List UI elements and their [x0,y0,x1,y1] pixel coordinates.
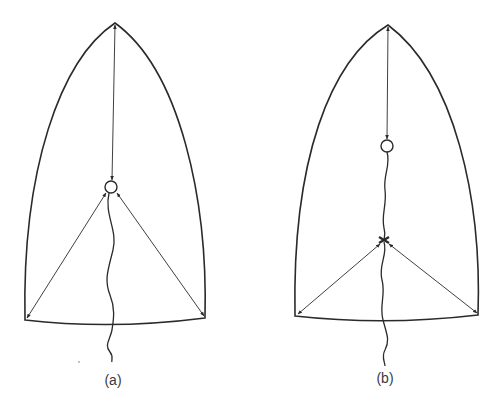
arrow-ring-to-tack-a [27,193,106,318]
arrow-junction-to-tack-b [298,244,380,314]
speck-a [78,361,80,363]
panel-label-a: (a) [104,372,121,388]
ring-b [381,140,393,152]
arrow-head-to-ring-b [387,27,388,139]
arrow-junction-to-clew-b [389,244,477,313]
arrow-ring-to-clew-a [117,193,204,316]
wavy-line-a [107,193,114,362]
panel-a [25,23,205,363]
wavy-line-upper-b [383,152,388,240]
panel-b [295,25,479,366]
arrow-head-to-ring-a [112,25,115,180]
wavy-line-lower-b [381,242,388,366]
panel-label-b: (b) [376,370,393,386]
sail-diagram [0,0,491,415]
ring-a [105,181,117,193]
